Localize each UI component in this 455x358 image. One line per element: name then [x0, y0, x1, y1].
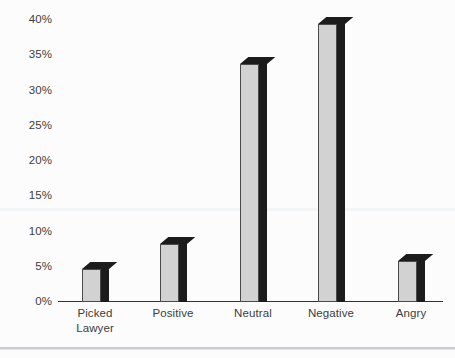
y-axis-tick-label: 25% [8, 120, 52, 132]
bar [82, 262, 109, 302]
bar-front-face [82, 269, 101, 302]
bar [318, 17, 345, 302]
bar [160, 237, 187, 302]
bar-front-face [318, 24, 337, 302]
y-axis-tick-label: 5% [8, 261, 52, 273]
plot-area [58, 20, 443, 302]
footer-divider-highlight [0, 349, 455, 350]
bar-top-face [240, 57, 275, 64]
bar-front-face [398, 261, 417, 302]
bar-chart: 0%5%10%15%20%25%30%35%40% Picked LawyerP… [0, 0, 455, 358]
bar-front-face [240, 64, 259, 302]
bar-top-face [160, 237, 195, 244]
y-axis-tick-label: 15% [8, 191, 52, 203]
y-axis-tick-label: 40% [8, 14, 52, 26]
y-axis-tick-label: 35% [8, 50, 52, 62]
bar-front-face [160, 244, 179, 302]
bar-side-face [179, 237, 187, 302]
bar-top-face [82, 262, 117, 269]
y-axis-tick-label: 10% [8, 226, 52, 238]
x-axis-tick-label: Picked Lawyer [50, 306, 140, 336]
bar-side-face [101, 262, 109, 302]
bar [398, 254, 425, 302]
bar [240, 57, 267, 302]
bar-side-face [337, 17, 345, 302]
bar-top-face [398, 254, 433, 261]
y-axis-tick-label: 30% [8, 85, 52, 97]
bar-side-face [259, 57, 267, 302]
x-axis-tick-label: Negative [286, 306, 376, 321]
x-axis-tick-label: Neutral [208, 306, 298, 321]
bar-top-face [318, 17, 353, 24]
x-axis-tick-label: Angry [366, 306, 455, 321]
y-axis-tick-label: 20% [8, 155, 52, 167]
y-axis-tick-label: 0% [8, 296, 52, 308]
x-axis-tick-label: Positive [128, 306, 218, 321]
bar-side-face [417, 254, 425, 302]
y-axis: 0%5%10%15%20%25%30%35%40% [0, 20, 52, 302]
